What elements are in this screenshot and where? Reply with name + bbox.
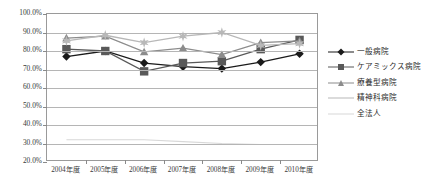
x-tick-mark [202, 160, 203, 164]
gridline [47, 70, 317, 71]
y-tick-label: 50.0% [0, 102, 42, 110]
x-tick-label: 2005年度 [90, 166, 118, 175]
legend-marker-icon [328, 108, 354, 120]
y-tick-label: 100.0% [0, 9, 42, 17]
data-point-marker [140, 59, 148, 67]
x-tick-mark [125, 160, 126, 164]
legend-label: 全法人 [357, 109, 381, 119]
gridline [47, 51, 317, 52]
legend-marker-icon [328, 46, 354, 58]
x-tick-label: 2008年度 [207, 166, 235, 175]
x-tick-mark [280, 160, 281, 164]
y-tick-label: 40.0% [0, 120, 42, 128]
y-tick-label: 70.0% [0, 65, 42, 73]
x-tick-mark [241, 160, 242, 164]
legend-item[interactable]: ケアミックス病院 [328, 60, 436, 76]
x-tick-label: 2006年度 [129, 166, 157, 175]
x-axis-labels: 2004年度2005年度2006年度2007年度2008年度2009年度2010… [46, 166, 318, 186]
x-tick-label: 2010年度 [284, 166, 312, 175]
chart-container: 100.0%90.0%80.0%70.0%60.0%50.0%40.0%30.0… [0, 0, 436, 192]
legend-label: ケアミックス病院 [357, 62, 421, 72]
data-point-marker [179, 59, 187, 67]
legend-label: 精神科病院 [357, 93, 397, 103]
legend-marker-icon [328, 61, 354, 73]
data-point-marker [257, 58, 265, 66]
x-tick-label: 2007年度 [168, 166, 196, 175]
x-tick-label: 2004年度 [51, 166, 79, 175]
x-tick-mark [86, 160, 87, 164]
y-tick-mark [43, 144, 47, 145]
y-tick-mark [43, 125, 47, 126]
legend-item[interactable]: 一般病院 [328, 44, 436, 60]
y-tick-mark [43, 14, 47, 15]
gridline [47, 144, 317, 145]
x-tick-label: 2009年度 [246, 166, 274, 175]
y-tick-label: 60.0% [0, 83, 42, 91]
y-tick-label: 80.0% [0, 46, 42, 54]
y-tick-mark [43, 70, 47, 71]
y-tick-mark [43, 51, 47, 52]
data-point-marker [140, 67, 148, 75]
legend-item[interactable]: 療養型病院 [328, 75, 436, 91]
plot-area [46, 13, 318, 161]
y-tick-label: 20.0% [0, 157, 42, 165]
gridline [47, 125, 317, 126]
data-point-marker [62, 45, 70, 53]
legend-item[interactable]: 全法人 [328, 106, 436, 122]
legend-label: 療養型病院 [357, 78, 397, 88]
y-tick-mark [43, 107, 47, 108]
x-tick-mark [164, 160, 165, 164]
chart-legend: 一般病院ケアミックス病院療養型病院精神科病院全法人 [328, 44, 436, 122]
gridline [47, 33, 317, 34]
legend-marker-icon [328, 92, 354, 104]
y-axis-labels: 100.0%90.0%80.0%70.0%60.0%50.0%40.0%30.0… [0, 0, 44, 192]
legend-marker-icon [328, 77, 354, 89]
gridline [47, 88, 317, 89]
y-tick-label: 30.0% [0, 139, 42, 147]
gridline [47, 107, 317, 108]
legend-label: 一般病院 [357, 47, 389, 57]
legend-item[interactable]: 精神科病院 [328, 91, 436, 107]
data-point-marker [62, 52, 70, 60]
data-point-marker [218, 57, 226, 65]
y-tick-label: 90.0% [0, 28, 42, 36]
y-tick-mark [43, 162, 47, 163]
y-tick-mark [43, 33, 47, 34]
y-tick-mark [43, 88, 47, 89]
